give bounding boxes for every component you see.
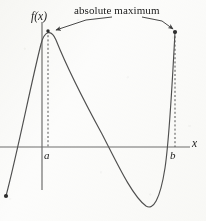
leader-line-to-peak: [56, 17, 112, 30]
function-label: f(x): [31, 11, 47, 23]
annotation-label-absolute-maximum: absolute maximum: [74, 5, 160, 16]
x-axis-label: x: [192, 138, 197, 150]
tick-label-b: b: [170, 150, 176, 161]
function-plot: [0, 0, 206, 221]
right-endpoint-dot: [173, 30, 177, 34]
left-endpoint-dot: [4, 194, 8, 198]
local-peak-dot: [46, 29, 49, 32]
function-curve: [6, 32, 175, 207]
tick-label-a: a: [44, 150, 50, 161]
absolute-maximum-figure: absolute maximum f(x) a b x: [0, 0, 206, 221]
leader-line-to-endpoint: [142, 17, 173, 29]
